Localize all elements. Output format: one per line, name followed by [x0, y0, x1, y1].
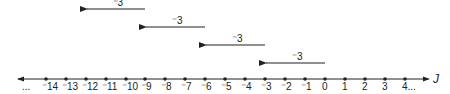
axis-label: J — [432, 72, 440, 86]
point-label: ⁻5 — [221, 81, 232, 92]
jump-label: ⁻3 — [232, 33, 243, 44]
point-label: ⁻11 — [102, 81, 118, 92]
point-label: ⁻10 — [122, 81, 139, 92]
point-label: 2 — [362, 81, 368, 92]
jump-arrow: ⁻3 — [206, 33, 265, 45]
point-label: 3 — [382, 81, 388, 92]
point-label: 4... — [402, 81, 416, 92]
jump-label: ⁻3 — [292, 51, 303, 62]
point-label: ⁻9 — [141, 81, 152, 92]
point-label: ⁻3 — [261, 81, 272, 92]
axis-right-arrow-icon — [423, 77, 430, 82]
point-label: ⁻8 — [161, 81, 172, 92]
point-label: ⁻2 — [281, 81, 292, 92]
jump-arrow: ⁻3 — [266, 51, 325, 63]
point-label: ⁻1 — [301, 81, 312, 92]
point-label: 0 — [322, 81, 328, 92]
point-label: ⁻7 — [181, 81, 192, 92]
jump-arrows: ⁻3⁻3⁻3⁻3 — [87, 0, 325, 63]
point-label: ⁻12 — [82, 81, 99, 92]
jump-arrow: ⁻3 — [87, 0, 145, 9]
jump-label: ⁻3 — [113, 0, 124, 8]
point-label: 1 — [342, 81, 348, 92]
left-ellipsis: ... — [22, 81, 30, 92]
jump-label: ⁻3 — [172, 15, 183, 26]
jump-arrow: ⁻3 — [146, 15, 205, 27]
point-label: ⁻13 — [62, 81, 79, 92]
point-label: ⁻14 — [42, 81, 59, 92]
point-label: ⁻6 — [201, 81, 212, 92]
point-label: ⁻4 — [241, 81, 252, 92]
number-line-diagram: ⁻3⁻3⁻3⁻3 J ... ⁻14⁻13⁻12⁻11⁻10⁻9⁻8⁻7⁻6⁻5… — [0, 0, 450, 94]
